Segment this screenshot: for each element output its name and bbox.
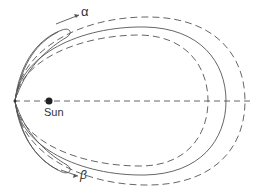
orbit-diagram: α β Sun [0,0,261,193]
vertex-point [14,100,17,103]
orbit-figure [0,0,261,193]
alpha-label: α [81,4,89,19]
beta-label: β [80,168,87,182]
alpha-stream [15,29,70,101]
sun-label: Sun [44,106,64,118]
sun-icon [46,98,53,105]
